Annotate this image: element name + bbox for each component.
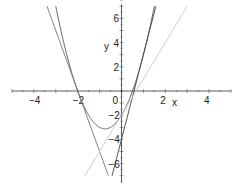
x-axis-label: x bbox=[172, 97, 177, 108]
x-tick-label: 2 bbox=[160, 95, 166, 106]
x-tick-label: 0 bbox=[113, 95, 119, 106]
x-tick-label: 4 bbox=[204, 95, 210, 106]
y-tick-label: 4 bbox=[114, 38, 120, 49]
y-tick-label: 2 bbox=[114, 62, 120, 73]
x-tick-labels: −4−2024 bbox=[29, 95, 210, 106]
y-axis-label: y bbox=[104, 41, 109, 52]
parabola-curve bbox=[55, 1, 155, 129]
y-tick-label: −4 bbox=[109, 134, 121, 145]
y-tick-label: 6 bbox=[114, 13, 120, 24]
function-plot: −4−2024 −6−4−2246 x y bbox=[0, 0, 240, 188]
y-axis bbox=[120, 0, 124, 182]
curves bbox=[47, 1, 187, 176]
x-tick-label: −4 bbox=[29, 95, 41, 106]
